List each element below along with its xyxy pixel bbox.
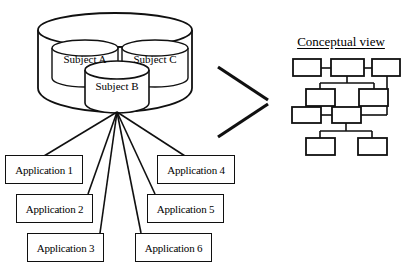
connector-to-application-1 [44,112,117,156]
node-r1-a [293,59,321,76]
subject-c-label: Subject C [122,53,188,65]
node-r3-a [292,107,321,123]
node-r1-c [372,59,400,76]
node-r3-b [332,107,361,123]
application-2-box[interactable]: Application 2 [16,194,93,223]
application-4-box[interactable]: Application 4 [157,155,235,184]
node-r1-b [331,59,364,76]
application-5-box[interactable]: Application 5 [147,194,224,223]
node-r4-a [306,138,335,155]
diagram-canvas: Conceptual view Subject A Subject C Subj… [0,0,401,273]
subject-b-label: Subject B [85,80,149,92]
connector-to-application-3 [100,112,117,233]
application-6-box[interactable]: Application 6 [135,233,212,262]
conceptual-view-title: Conceptual view [285,34,397,50]
application-1-box[interactable]: Application 1 [5,155,83,184]
conceptual-tree-nodes [292,59,400,155]
connector-to-application-2 [88,112,117,194]
node-r4-b [358,138,387,155]
node-r2-a [306,89,335,106]
connector-to-application-6 [117,112,141,233]
application-3-box[interactable]: Application 3 [27,233,104,262]
chevron-right-arrow [218,67,268,137]
node-r2-b [359,89,388,106]
subject-a-label: Subject A [52,53,118,65]
